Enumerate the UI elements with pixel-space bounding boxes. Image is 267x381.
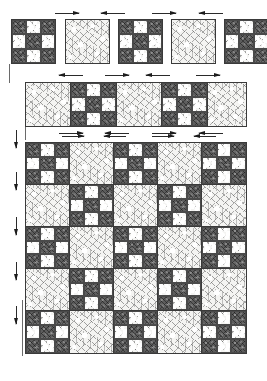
press-arrow-left <box>59 73 83 78</box>
press-arrow-down <box>14 217 19 235</box>
block-nine-patch <box>114 311 158 353</box>
patch-cell-light <box>239 20 253 34</box>
patch-cell-dark <box>86 97 101 111</box>
block-plain <box>114 269 158 311</box>
block-plain <box>65 19 110 64</box>
patch-cell-light <box>254 34 267 48</box>
block-plain <box>171 19 216 64</box>
press-arrow-right <box>152 11 176 16</box>
patch-cell-light <box>26 20 40 34</box>
block-plain <box>70 143 114 185</box>
press-arrow-left <box>101 11 125 16</box>
patch-cell-dark <box>148 20 162 34</box>
patch-cell-dark <box>101 112 116 126</box>
press-arrow-right <box>62 134 84 139</box>
block-nine-patch <box>114 227 158 269</box>
patch-cell-light <box>86 112 101 126</box>
patch-cell-dark <box>162 112 177 126</box>
block-nine-patch <box>158 269 202 311</box>
block-nine-patch <box>71 83 116 126</box>
patch-cell-dark <box>177 97 192 111</box>
patch-cell-dark <box>239 34 253 48</box>
patch-cell-light <box>177 112 192 126</box>
block-nine-patch <box>70 185 114 227</box>
press-arrow-right <box>152 134 174 139</box>
patch-cell-dark <box>225 20 239 34</box>
press-arrow-left <box>194 134 216 139</box>
press-arrow-right <box>105 73 129 78</box>
patch-cell-dark <box>12 20 26 34</box>
patch-cell-light <box>133 20 147 34</box>
block-nine-patch <box>162 83 207 126</box>
patch-cell-light <box>26 49 40 63</box>
press-arrow-down <box>14 130 19 148</box>
patch-cell-light <box>133 49 147 63</box>
strip-outline <box>25 82 247 127</box>
patch-cell-dark <box>254 20 267 34</box>
press-arrow-right <box>55 11 79 16</box>
block-plain <box>114 185 158 227</box>
patch-cell-light <box>71 97 86 111</box>
quilt-assembly-diagram <box>0 0 267 381</box>
block-nine-patch <box>202 227 246 269</box>
patch-cell-light <box>162 97 177 111</box>
block-plain <box>70 227 114 269</box>
patch-cell-dark <box>101 83 116 97</box>
patch-cell-light <box>192 97 207 111</box>
quilt-top-grid <box>25 142 247 354</box>
block-plain <box>26 83 71 126</box>
patch-cell-light <box>225 34 239 48</box>
patch-cell-dark <box>71 112 86 126</box>
patch-cell-light <box>12 34 26 48</box>
press-arrow-down <box>14 306 19 324</box>
patch-cell-light <box>41 34 55 48</box>
patch-cell-dark <box>119 49 133 63</box>
block-plain <box>158 227 202 269</box>
block-nine-patch <box>114 143 158 185</box>
patch-cell-dark <box>26 34 40 48</box>
block-nine-patch <box>11 19 56 64</box>
alignment-tick <box>9 70 10 83</box>
press-arrow-left <box>104 134 126 139</box>
press-arrow-left <box>199 11 223 16</box>
block-nine-patch <box>118 19 163 64</box>
block-nine-patch <box>26 143 70 185</box>
patch-cell-light <box>101 97 116 111</box>
block-plain <box>202 185 246 227</box>
block-nine-patch <box>202 143 246 185</box>
block-plain <box>202 269 246 311</box>
block-plain <box>26 185 70 227</box>
block-nine-patch <box>26 227 70 269</box>
patch-cell-dark <box>41 49 55 63</box>
press-arrow-down <box>14 262 19 280</box>
alignment-tick <box>25 127 26 140</box>
patch-cell-dark <box>225 49 239 63</box>
patch-cell-dark <box>148 49 162 63</box>
patch-cell-dark <box>119 20 133 34</box>
patch-cell-light <box>239 49 253 63</box>
block-plain <box>70 311 114 353</box>
patch-cell-light <box>86 83 101 97</box>
press-arrow-right <box>196 73 220 78</box>
press-arrow-down <box>14 172 19 190</box>
patch-cell-dark <box>254 49 267 63</box>
block-nine-patch <box>158 185 202 227</box>
patch-cell-light <box>177 83 192 97</box>
block-plain <box>208 83 246 126</box>
alignment-tick <box>22 300 23 356</box>
patch-cell-dark <box>162 83 177 97</box>
patch-cell-light <box>148 34 162 48</box>
block-plain <box>158 143 202 185</box>
patch-cell-light <box>119 34 133 48</box>
patch-cell-dark <box>12 49 26 63</box>
patch-cell-dark <box>41 20 55 34</box>
block-nine-patch <box>70 269 114 311</box>
patch-cell-dark <box>192 112 207 126</box>
block-nine-patch <box>26 311 70 353</box>
press-arrow-left <box>146 73 170 78</box>
block-plain <box>117 83 162 126</box>
block-nine-patch <box>224 19 267 64</box>
patch-cell-dark <box>71 83 86 97</box>
block-nine-patch <box>202 311 246 353</box>
block-plain <box>26 269 70 311</box>
